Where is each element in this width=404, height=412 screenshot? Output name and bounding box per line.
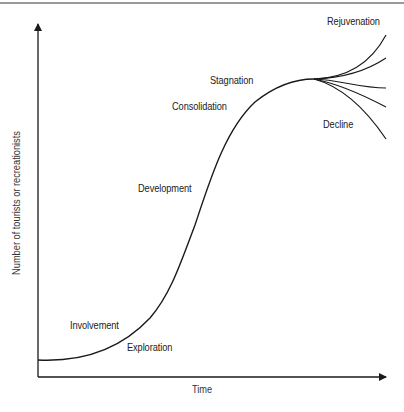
y-axis-label: Number of tourists or recreationists — [10, 131, 22, 275]
lifecycle-diagram — [0, 0, 404, 412]
label-rejuvenation: Rejuvenation — [327, 15, 380, 27]
x-axis-label: Time — [192, 383, 212, 395]
branch-rejuvenation-moderate — [314, 58, 386, 79]
label-stagnation: Stagnation — [210, 74, 253, 86]
label-decline: Decline — [323, 118, 353, 130]
label-exploration: Exploration — [127, 341, 172, 353]
branch-stabilise — [314, 79, 386, 88]
label-involvement: Involvement — [70, 319, 119, 331]
label-consolidation: Consolidation — [172, 100, 227, 112]
branch-rejuvenation-strong — [314, 35, 386, 79]
label-development: Development — [138, 182, 191, 194]
